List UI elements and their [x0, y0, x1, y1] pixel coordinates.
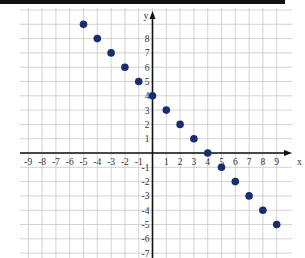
data-point — [176, 121, 184, 129]
y-tick-label: 6 — [145, 63, 150, 73]
x-axis-label: x — [297, 156, 302, 167]
y-tick-label: 1 — [145, 134, 150, 144]
data-point — [245, 192, 253, 200]
x-tick-label: -7 — [52, 157, 60, 167]
y-tick-label: -7 — [142, 249, 150, 258]
x-tick-label: 6 — [233, 157, 238, 167]
data-point — [163, 106, 171, 114]
x-tick-label: -2 — [121, 157, 129, 167]
y-tick-label: 7 — [145, 48, 150, 58]
y-tick-label: 3 — [145, 106, 150, 116]
y-tick-labels: 87654321-1-2-3-4-5-6-7 — [142, 34, 150, 258]
y-tick-label: 8 — [145, 34, 150, 44]
grid — [20, 8, 292, 258]
data-point — [94, 35, 102, 43]
x-tick-label: 1 — [164, 157, 169, 167]
x-tick-label: 4 — [205, 157, 210, 167]
data-point — [190, 135, 198, 143]
data-point — [149, 92, 157, 100]
y-tick-label: -2 — [142, 177, 150, 187]
data-point — [107, 49, 115, 57]
data-point — [273, 221, 281, 229]
x-tick-label: 8 — [261, 157, 266, 167]
x-tick-label: -4 — [93, 157, 101, 167]
data-point — [232, 178, 240, 186]
y-axis-arrow-icon — [150, 11, 156, 19]
x-tick-label: 9 — [274, 157, 279, 167]
y-axis-label: y — [144, 10, 149, 21]
data-point — [135, 78, 143, 86]
x-tick-label: -5 — [80, 157, 88, 167]
data-point — [204, 149, 212, 157]
axes: xy — [20, 10, 302, 258]
x-tick-label: 2 — [178, 157, 183, 167]
x-tick-label: -8 — [38, 157, 46, 167]
y-tick-label: -4 — [142, 206, 150, 216]
x-axis-arrow-icon — [284, 150, 292, 156]
y-tick-label: -3 — [142, 191, 150, 201]
y-tick-label: -6 — [142, 234, 150, 244]
data-point — [121, 63, 129, 71]
y-tick-label: -5 — [142, 220, 150, 230]
x-tick-label: -3 — [107, 157, 115, 167]
y-tick-label: -1 — [142, 163, 150, 173]
x-tick-label: 3 — [192, 157, 197, 167]
y-tick-label: 2 — [145, 120, 150, 130]
y-tick-label: 5 — [145, 77, 150, 87]
data-point — [259, 206, 267, 214]
x-tick-label: -6 — [66, 157, 74, 167]
coordinate-plane: xy-9-8-7-6-5-4-3-2-112345678987654321-1-… — [0, 0, 305, 258]
data-point — [218, 164, 226, 172]
x-tick-label: 7 — [247, 157, 252, 167]
data-point — [80, 21, 88, 29]
x-tick-label: -9 — [24, 157, 32, 167]
